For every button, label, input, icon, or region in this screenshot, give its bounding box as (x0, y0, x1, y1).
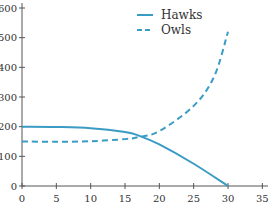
x-tick-label: 20 (153, 193, 166, 204)
x-tick-label: 15 (119, 193, 132, 204)
y-tick-label: 600 (0, 3, 17, 14)
legend-owls-label: Owls (161, 23, 191, 37)
x-tick-label: 25 (187, 193, 200, 204)
series-owls-line (22, 32, 228, 142)
y-tick-label: 100 (0, 151, 17, 162)
legend-hawks-label: Hawks (161, 8, 202, 22)
x-tick-label: 35 (256, 193, 269, 204)
y-tick-label: 0 (11, 181, 17, 192)
line-chart: 010020030040050060005101520253035 Hawks … (0, 0, 274, 209)
y-tick-label: 500 (0, 32, 17, 43)
x-tick-label: 0 (19, 193, 25, 204)
x-tick-label: 10 (84, 193, 97, 204)
series-group (22, 32, 228, 186)
x-tick-label: 30 (222, 193, 235, 204)
y-tick-label: 200 (0, 121, 17, 132)
x-tick-label: 5 (53, 193, 59, 204)
y-tick-label: 300 (0, 92, 17, 103)
series-hawks-line (22, 127, 228, 186)
legend: Hawks Owls (137, 8, 202, 37)
y-tick-label: 400 (0, 62, 17, 73)
